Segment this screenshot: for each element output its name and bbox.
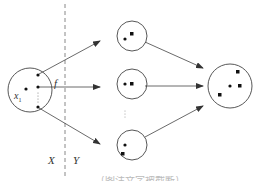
codomain-label-Y: Y <box>73 155 79 166</box>
mapping-arrow <box>39 108 100 144</box>
element-label-subscript: 1 <box>18 97 21 103</box>
middle-vertical-ellipsis-icon <box>125 111 126 118</box>
function-label-f: f <box>54 78 57 89</box>
element-dot <box>24 87 27 90</box>
result-set <box>208 64 252 108</box>
domain-label-X: X <box>48 155 55 166</box>
image-set-2 <box>117 69 147 99</box>
image-set-n <box>117 130 147 160</box>
element-label-x1: x1 <box>14 91 21 103</box>
mapping-arrow <box>39 41 100 74</box>
diagram-canvas <box>0 0 259 181</box>
aggregation-arrow <box>145 106 203 137</box>
image-set-1 <box>117 21 147 51</box>
aggregation-arrow <box>145 42 203 68</box>
mapping-diagram: f x1 X Y （图注文字被截断） <box>0 0 259 181</box>
vertical-ellipsis-icon <box>38 93 39 103</box>
figure-caption-truncated: （图注文字被截断） <box>95 176 235 181</box>
